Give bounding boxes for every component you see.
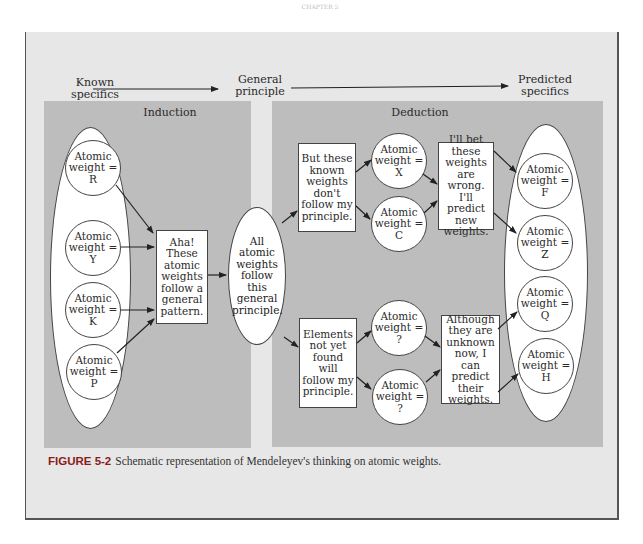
induction-title: Induction — [120, 107, 220, 119]
predict-weights-box: Although they are unknown now, I can pre… — [441, 315, 500, 404]
label-predicted-specifics: Predicted specifics — [510, 74, 580, 98]
weight-value: H — [541, 372, 550, 384]
known-weight-k: Atomic weight = K — [65, 282, 121, 338]
weight-value: P — [90, 378, 97, 390]
weight-value: K — [89, 316, 97, 328]
weight-value: ? — [396, 334, 402, 346]
predicted-weight-z: Atomic weight = Z — [517, 215, 573, 271]
label-known-specifics: Known specifics — [60, 77, 130, 101]
running-head: CHAPTER 5 — [240, 3, 400, 9]
weight-value: ? — [397, 403, 403, 415]
weight-value: X — [395, 167, 402, 179]
weight-unknown-2: Atomic weight = ? — [372, 369, 428, 425]
weight-unknown-1: Atomic weight = ? — [371, 300, 427, 356]
general-principle-ellipse: All atomic weights follow this general p… — [228, 207, 286, 345]
weight-value: Q — [541, 310, 550, 322]
weight-value: F — [541, 187, 548, 199]
weight-c: Atomic weight = C — [371, 196, 427, 252]
weight-x: Atomic weight = X — [371, 133, 427, 189]
known-weight-p: Atomic weight = P — [66, 344, 122, 400]
pattern-box: Aha! These atomic weights follow a gener… — [156, 230, 208, 324]
principle-text: All atomic weights follow this general p… — [232, 236, 282, 317]
predicted-weight-h: Atomic weight = H — [518, 338, 574, 394]
weight-value: Y — [90, 254, 97, 266]
label-line: specifics — [60, 89, 130, 101]
known-weight-r: Atomic weight = R — [65, 140, 121, 196]
predicted-weight-f: Atomic weight = F — [517, 153, 573, 209]
undiscovered-elements-box: Elements not yet found will follow my pr… — [299, 318, 357, 408]
caption-text: Schematic representation of Mendeleyev's… — [115, 455, 441, 467]
label-general-principle: General principle — [225, 74, 295, 98]
deduction-title: Deduction — [370, 107, 470, 119]
unfollowed-weights-box: But these known weights don't follow my … — [298, 143, 356, 232]
label-line: specifics — [510, 86, 580, 98]
weight-value: Z — [541, 249, 548, 261]
weight-value: C — [395, 230, 403, 242]
wrong-weights-box: I'll bet these weights are wrong. I'll p… — [438, 142, 494, 230]
predicted-weight-q: Atomic weight = Q — [517, 276, 573, 332]
weight-value: R — [89, 174, 97, 186]
known-weight-y: Atomic weight = Y — [65, 220, 121, 276]
caption-label: FIGURE 5-2 — [48, 455, 111, 467]
figure-caption: FIGURE 5-2Schematic representation of Me… — [48, 455, 441, 467]
label-line: principle — [225, 86, 295, 98]
